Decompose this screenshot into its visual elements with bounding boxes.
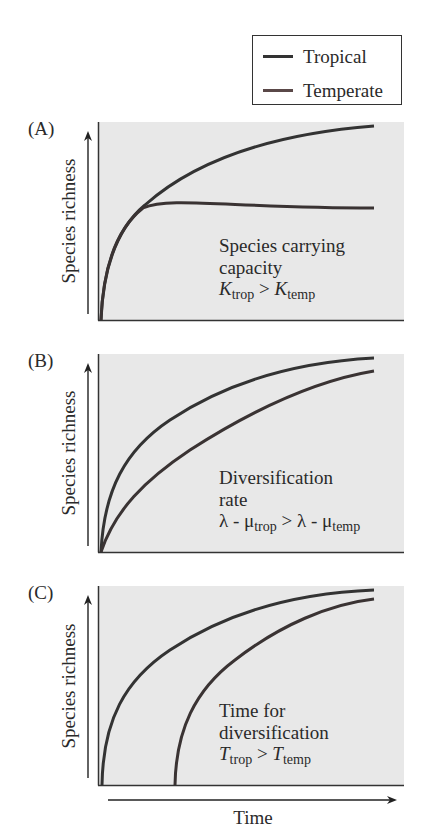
panel-c-annotation-line1: Time for [219, 700, 329, 722]
panel-c-ylabel: Species richness [59, 623, 79, 748]
formula-var: T [219, 743, 230, 764]
formula-op: > [259, 278, 270, 299]
formula-sub: trop [232, 287, 255, 302]
panel-c-annotation-line2: diversification [219, 722, 329, 744]
panel-b-annotation-line2: rate [219, 489, 360, 511]
panel-a-letter: (A) [28, 118, 54, 140]
panel-b-ylabel: Species richness [59, 390, 79, 515]
formula-sub: trop [254, 519, 277, 534]
formula-var: λ - μ [219, 510, 254, 531]
formula-op: > [257, 743, 268, 764]
panel-a-annotation: Species carrying capacity Ktrop > Ktemp [219, 235, 345, 300]
formula-op: > [282, 510, 293, 531]
formula-sub: temp [283, 752, 311, 767]
formula-var: K [274, 278, 287, 299]
panel-b-annotation-line1: Diversification [219, 467, 360, 489]
formula-var: T [272, 743, 283, 764]
x-axis-label: Time [233, 807, 272, 829]
formula-sub: temp [287, 287, 315, 302]
formula-var: λ - μ [297, 510, 332, 531]
panel-c-annotation: Time for diversification Ttrop > Ttemp [219, 700, 329, 765]
formula-sub: trop [230, 752, 253, 767]
formula-sub: temp [332, 519, 360, 534]
panel-a-annotation-line1: Species carrying [219, 235, 345, 257]
panel-a-ylabel: Species richness [59, 158, 79, 283]
panel-a-annotation-line2: capacity [219, 257, 345, 279]
panel-a-formula: Ktrop > Ktemp [219, 278, 345, 300]
formula-var: K [219, 278, 232, 299]
panel-c-formula: Ttrop > Ttemp [219, 743, 329, 765]
panel-b-formula: λ - μtrop > λ - μtemp [219, 510, 360, 532]
panel-b-annotation: Diversification rate λ - μtrop > λ - μte… [219, 467, 360, 532]
panel-b-letter: (B) [28, 350, 53, 372]
panel-c-letter: (C) [28, 582, 53, 604]
